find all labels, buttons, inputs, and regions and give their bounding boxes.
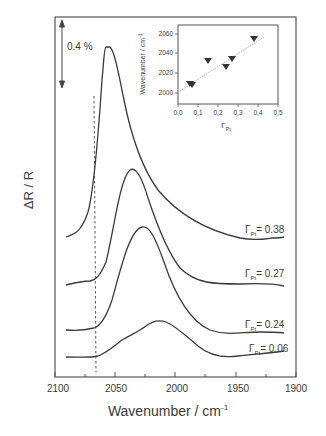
label-006: ΓPt= 0.06 [249,343,289,356]
x-axis-label: Wavenumber / cm-1 [108,403,229,419]
svg-text:0,1: 0,1 [193,109,202,116]
x-axis-ticks [55,372,296,377]
svg-text:0,5: 0,5 [273,109,282,116]
svg-text:1950: 1950 [227,383,250,394]
label-024: ΓPt= 0.24 [245,319,285,332]
svg-text:0,4: 0,4 [253,109,262,116]
x-tick-labels: 2100 2050 2000 1950 1900 [47,383,308,394]
series-labels: ΓPt= 0.38 ΓPt= 0.27 ΓPt= 0.24 ΓPt= 0.06 [245,224,289,356]
svg-text:2020: 2020 [159,69,174,76]
y-axis-label: ΔR / R [21,171,36,209]
svg-text:2100: 2100 [47,383,70,394]
inset-x-label: ΓPt [221,121,231,132]
scale-bar [60,20,65,88]
svg-text:1900: 1900 [285,383,308,394]
inset-x-tick-labels: 0,0 0,1 0,2 0,3 0,4 0,5 [173,109,282,116]
spectra-chart: 2100 2050 2000 1950 1900 Wavenumber / cm… [0,0,326,436]
svg-text:0,0: 0,0 [173,109,182,116]
label-038: ΓPt= 0.38 [245,224,285,237]
reference-dashed-line [94,96,96,372]
label-027: ΓPt= 0.27 [245,268,285,281]
svg-text:0,2: 0,2 [213,109,222,116]
scale-bar-label: 0.4 % [67,41,93,52]
svg-text:2000: 2000 [166,383,189,394]
svg-text:0,3: 0,3 [233,109,242,116]
curve-027 [66,169,284,286]
inset-plot: 2000 2020 2040 2060 0,0 0,1 0,2 0,3 0,4 … [137,25,283,132]
svg-text:2000: 2000 [159,89,174,96]
svg-text:2050: 2050 [105,383,128,394]
inset-y-tick-labels: 2000 2020 2040 2060 [159,30,174,96]
inset-y-label: Wavenumber / cm-1 [137,33,146,94]
svg-text:2060: 2060 [159,30,174,37]
svg-text:2040: 2040 [159,49,174,56]
